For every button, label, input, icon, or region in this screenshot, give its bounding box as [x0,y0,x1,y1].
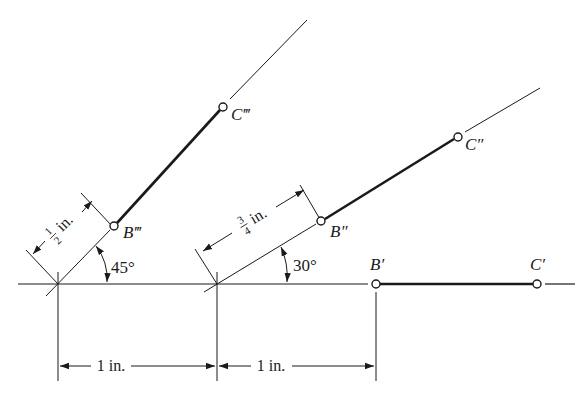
label-C3: C‴ [231,105,250,124]
arc-45 [96,246,107,282]
svg-text:in.: in. [52,211,76,235]
point-B1 [372,280,380,288]
label-B1: B′ [370,255,384,274]
ray-30-ext [465,88,540,132]
geometry-diagram: B‴ C‴ B″ C″ B′ C′ 45° 30° 1 2 in. 3 4 in… [0,0,588,396]
ray-45-ext [230,20,307,99]
dim-line-3q-upper [276,190,304,207]
point-B3 [110,222,118,230]
dim-label-1in-a: 1 in. [97,357,125,374]
ext-line-half-a [26,250,58,284]
angle-30-label: 30° [293,256,317,275]
label-B3: B‴ [123,223,141,242]
point-C3 [219,103,227,111]
dim-line-half-upper [82,201,92,212]
svg-text:4: 4 [242,224,253,237]
segment-B3-C3 [117,110,220,223]
ext-line-half-b [81,193,112,226]
segment-B2-C2 [325,139,454,219]
svg-text:in.: in. [247,204,270,227]
dim-line-3q-lower [203,233,232,251]
label-C1: C′ [530,255,545,274]
point-C2 [454,133,462,141]
ext-line-3q-a [195,249,217,284]
label-B2: B″ [330,222,348,241]
point-B2 [317,217,325,225]
angle-45-label: 45° [111,258,135,277]
svg-text:2: 2 [51,234,63,246]
dim-label-three-quarter-in: 3 4 in. [234,201,272,238]
dim-label-half-in: 1 2 in. [41,209,80,248]
arc-30 [281,247,287,282]
label-C2: C″ [465,135,484,154]
point-C1 [533,280,541,288]
dim-line-half-lower [33,241,45,254]
dim-label-1in-b: 1 in. [257,357,285,374]
